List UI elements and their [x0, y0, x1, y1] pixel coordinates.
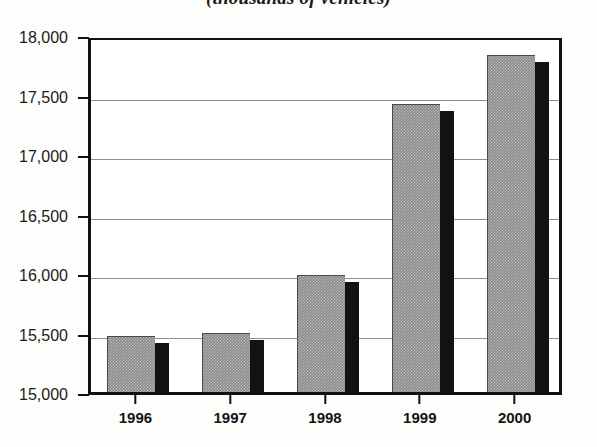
y-axis-tick: 18,000 — [19, 29, 88, 47]
bar-shadow — [155, 343, 169, 392]
bar-body — [392, 104, 440, 392]
x-axis-tick: 1999 — [403, 395, 436, 426]
y-axis-tick: 17,000 — [19, 148, 88, 166]
bar-body — [297, 275, 345, 392]
y-axis-tick-label: 15,500 — [19, 327, 78, 345]
bar-1998 — [297, 275, 359, 392]
y-axis-tick: 16,500 — [19, 208, 88, 226]
bars-layer — [91, 40, 559, 392]
bar-body — [107, 336, 155, 392]
y-axis-tick-label: 16,000 — [19, 267, 78, 285]
y-axis-tick-label: 17,500 — [19, 89, 78, 107]
x-axis-tick-label: 2000 — [498, 409, 531, 426]
bar-body — [487, 55, 535, 392]
bar-1996 — [107, 336, 169, 392]
y-axis-tick: 15,000 — [19, 386, 88, 404]
x-axis-tick-mark — [514, 395, 516, 404]
bar-2000 — [487, 55, 549, 392]
bar-1999 — [392, 104, 454, 392]
x-axis-tick-mark — [324, 395, 326, 404]
x-axis-tick: 1998 — [308, 395, 341, 426]
x-axis-tick-mark — [419, 395, 421, 404]
bar-chart-figure: (thousands of vehicles) 15,00015,50016,0… — [0, 0, 597, 447]
y-axis-tick: 16,000 — [19, 267, 88, 285]
x-axis-tick: 1996 — [119, 395, 152, 426]
x-axis-tick-label: 1998 — [308, 409, 341, 426]
bar-1997 — [202, 333, 264, 393]
bar-shadow — [345, 282, 359, 392]
y-axis-tick-label: 16,500 — [19, 208, 78, 226]
bar-shadow — [535, 62, 549, 392]
x-axis-tick: 2000 — [498, 395, 531, 426]
plot-area — [88, 38, 562, 395]
y-axis-tick: 17,500 — [19, 89, 88, 107]
y-axis-tick-label: 18,000 — [19, 29, 78, 47]
x-axis-tick-mark — [134, 395, 136, 404]
y-axis: 15,00015,50016,00016,50017,00017,50018,0… — [0, 38, 88, 395]
x-axis-tick-label: 1999 — [403, 409, 436, 426]
x-axis-tick: 1997 — [214, 395, 247, 426]
y-axis-tick-label: 17,000 — [19, 148, 78, 166]
y-axis-tick-label: 15,000 — [19, 386, 78, 404]
chart-title-clip: (thousands of vehicles) — [0, 0, 597, 9]
bar-shadow — [440, 111, 454, 392]
bar-shadow — [250, 340, 264, 393]
bar-body — [202, 333, 250, 393]
y-axis-tick: 15,500 — [19, 327, 88, 345]
x-axis-tick-label: 1997 — [214, 409, 247, 426]
chart-title: (thousands of vehicles) — [0, 0, 597, 9]
x-axis-tick-label: 1996 — [119, 409, 152, 426]
x-axis: 19961997199819992000 — [88, 395, 562, 447]
x-axis-tick-mark — [229, 395, 231, 404]
